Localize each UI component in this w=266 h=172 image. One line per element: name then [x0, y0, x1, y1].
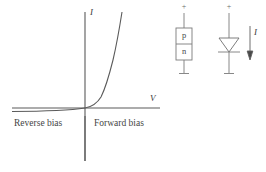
diode-figure: I V Reverse bias Forward bias + p n + I — [0, 0, 266, 172]
diode-symbol-graphic — [218, 13, 240, 74]
region-label-forward-bias: Forward bias — [94, 119, 144, 129]
pn-top-plus-sign: + — [178, 3, 190, 11]
diode-triangle-icon — [219, 38, 239, 52]
axis-label-voltage: V — [150, 94, 156, 103]
pn-layer-label-n: n — [176, 47, 192, 56]
diode-top-plus-sign: + — [223, 3, 235, 11]
current-arrow-icon — [247, 26, 253, 60]
pn-junction-graphic — [176, 13, 192, 74]
graph-axes — [12, 12, 160, 161]
iv-curve-path — [12, 12, 122, 112]
axis-label-current: I — [90, 8, 93, 17]
iv-curve — [12, 12, 122, 112]
region-label-reverse-bias: Reverse bias — [14, 119, 62, 129]
diode-current-label: I — [254, 28, 257, 37]
pn-layer-label-p: p — [176, 31, 192, 40]
figure-vector-layer — [0, 0, 266, 172]
